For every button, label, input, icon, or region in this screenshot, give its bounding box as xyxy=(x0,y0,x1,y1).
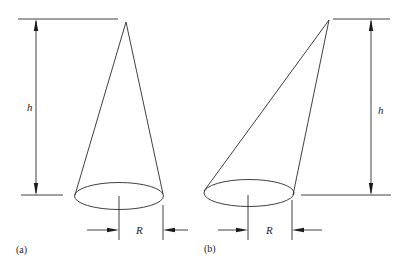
height-b-label: h xyxy=(378,104,384,116)
panel-b: h R (b) xyxy=(204,19,391,255)
height-a-label: h xyxy=(27,101,33,113)
radius-a-label: R xyxy=(135,224,143,236)
arrow-down-icon xyxy=(34,183,38,195)
cone-a-right-side xyxy=(126,22,163,194)
cone-b-base xyxy=(204,180,294,207)
arrow-right-icon xyxy=(236,228,248,232)
panel-a: h R (a) xyxy=(16,19,188,256)
arrow-up-icon xyxy=(34,19,38,31)
arrow-down-icon xyxy=(369,183,373,195)
cone-diagram: h R (a) h R (b) xyxy=(0,0,410,269)
radius-b-label: R xyxy=(265,224,273,236)
cone-a-left-side xyxy=(75,22,126,195)
cone-b-right-side xyxy=(293,20,329,195)
cone-b-left-side xyxy=(204,20,329,191)
arrow-right-icon xyxy=(107,228,119,232)
arrow-left-icon xyxy=(292,228,304,232)
panel-b-caption: (b) xyxy=(204,243,216,255)
panel-a-caption: (a) xyxy=(16,244,27,256)
arrow-up-icon xyxy=(369,19,373,31)
arrow-left-icon xyxy=(163,228,175,232)
